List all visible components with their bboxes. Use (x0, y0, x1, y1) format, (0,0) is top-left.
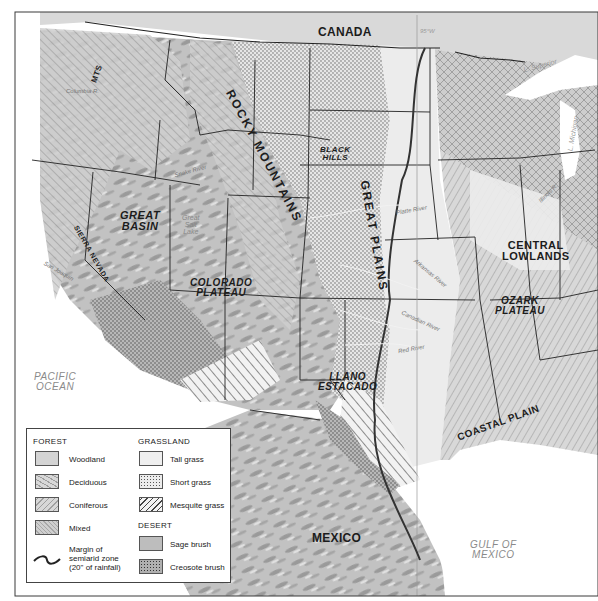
legend-header-desert: DESERT (138, 521, 172, 530)
label-black-hills: BLACK HILLS (320, 146, 351, 162)
legend-deciduous: Deciduous (69, 478, 107, 487)
label-llano-estacado: LLANO ESTACADO (318, 372, 377, 392)
swatch-creosote (139, 559, 163, 574)
legend-semiarid-line2: semiarid zone (69, 554, 119, 563)
swatch-deciduous (35, 474, 59, 489)
legend-semiarid-line3: (20" of rainfall) (69, 563, 121, 572)
map-legend: FOREST Woodland Deciduous Coniferous Mix… (26, 428, 231, 583)
legend-mesquite: Mesquite grass (170, 501, 224, 510)
legend-sage: Sage brush (170, 540, 211, 549)
swatch-tallgrass (139, 451, 163, 466)
label-canada: CANADA (318, 26, 372, 38)
legend-mixed: Mixed (69, 524, 90, 533)
legend-woodland: Woodland (69, 455, 105, 464)
swatch-mesquite (139, 497, 163, 512)
legend-tallgrass: Tall grass (170, 455, 204, 464)
label-great-basin: GREAT BASIN (120, 210, 160, 232)
label-ozark-plateau: OZARK PLATEAU (495, 296, 545, 316)
swatch-mixed (35, 520, 59, 535)
legend-header-forest: FOREST (33, 437, 67, 446)
label-mexico: MEXICO (312, 532, 361, 544)
swatch-woodland (35, 451, 59, 466)
legend-coniferous: Coniferous (69, 501, 108, 510)
label-meridian-95w: 95°W (420, 28, 435, 34)
swatch-coniferous (35, 497, 59, 512)
legend-shortgrass: Short grass (170, 478, 211, 487)
label-gulf-of-mexico: GULF OF MEXICO (470, 540, 517, 560)
label-columbia-river: Columbia R. (66, 88, 99, 94)
label-colorado-plateau: COLORADO PLATEAU (190, 278, 252, 298)
swatch-shortgrass (139, 474, 163, 489)
semiarid-line-icon (33, 555, 61, 565)
legend-creosote: Creosote brush (170, 563, 225, 572)
label-great-salt-lake: Great Salt Lake (182, 214, 200, 235)
label-central-lowlands: CENTRAL LOWLANDS (502, 240, 570, 262)
legend-semiarid-line1: Margin of (69, 545, 102, 554)
label-pacific-ocean: PACIFIC OCEAN (34, 372, 76, 392)
legend-header-grassland: GRASSLAND (138, 437, 190, 446)
swatch-sage (139, 536, 163, 551)
gulf-of-mexico (440, 440, 598, 596)
